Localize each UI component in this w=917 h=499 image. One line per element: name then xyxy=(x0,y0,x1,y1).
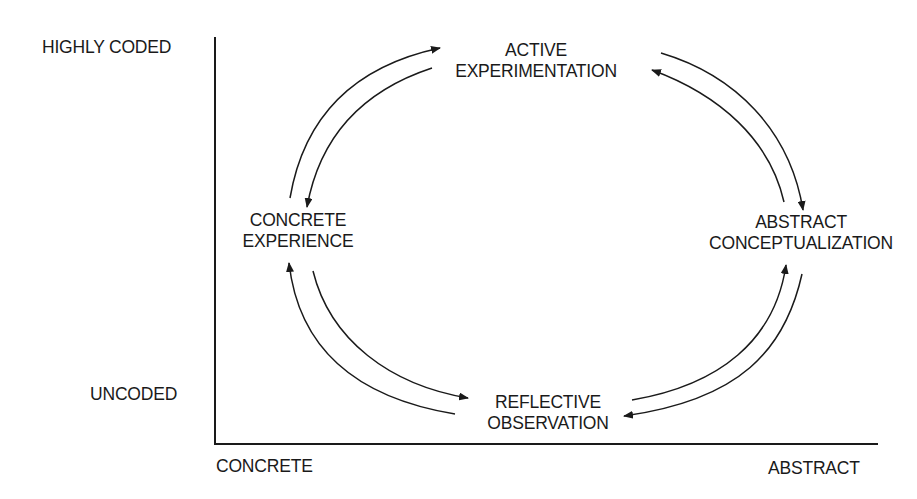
arrow-reflective-to-concrete xyxy=(289,263,455,414)
arrow-active-to-abstract xyxy=(661,53,803,210)
arrow-active-to-concrete xyxy=(307,68,432,207)
arrow-reflective-to-abstract xyxy=(632,265,786,400)
learning-cycle-diagram: HIGHLY CODED UNCODED CONCRETE ABSTRACT A… xyxy=(0,0,917,499)
arrow-concrete-to-active xyxy=(290,48,440,198)
arrow-concrete-to-reflective xyxy=(313,271,468,398)
arrow-abstract-to-active xyxy=(652,70,784,202)
cycle-arrows xyxy=(0,0,917,499)
arrow-abstract-to-reflective xyxy=(624,274,802,416)
